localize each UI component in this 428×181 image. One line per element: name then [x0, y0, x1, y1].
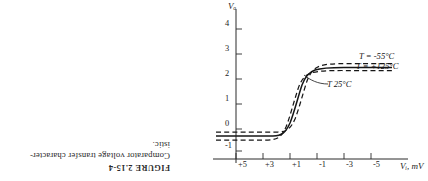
- y-axis-title: Vₒ: [228, 1, 236, 11]
- curve-label-t25c: T 25°C: [327, 79, 352, 89]
- x-axis-title: Vᵢ, mV: [400, 161, 425, 171]
- x-axis-ticks: [236, 153, 371, 159]
- comparator-transfer-characteristic-chart: -5 -3 -1 +1 +3 +5 -1 0 1 2 3 4 Vᵢ,: [178, 0, 428, 181]
- y-tick-label: -1: [225, 141, 232, 150]
- curve-label-t-minus-55c: T = -55°C: [359, 51, 395, 61]
- y-tick-label: 2: [225, 69, 229, 78]
- y-tick-label: 1: [225, 94, 229, 103]
- figure-number: FIGURE 2.15-4: [10, 162, 170, 174]
- curve-label-t-plus-125c: T = +125°C: [356, 61, 399, 71]
- figure-caption-line-1: Comparator voltage transfer character-: [10, 150, 170, 162]
- y-axis-ticks: [236, 29, 242, 151]
- figure-caption-line-2: istic.: [10, 139, 170, 151]
- y-tick-label: 4: [225, 19, 230, 28]
- curve-t-25c: [216, 68, 392, 137]
- scanned-page-rotated-180: -5 -3 -1 +1 +3 +5 -1 0 1 2 3 4 Vᵢ,: [0, 0, 428, 181]
- figure-caption: FIGURE 2.15-4 Comparator voltage transfe…: [10, 139, 170, 174]
- x-tick-label: -1: [319, 160, 326, 169]
- y-tick-label: 3: [225, 44, 229, 53]
- chart-svg: -5 -3 -1 +1 +3 +5 -1 0 1 2 3 4 Vᵢ,: [178, 0, 428, 181]
- figure-plot-area: -5 -3 -1 +1 +3 +5 -1 0 1 2 3 4 Vᵢ,: [178, 0, 428, 181]
- x-tick-label: +3: [265, 160, 274, 169]
- x-tick-label: +1: [292, 160, 301, 169]
- y-tick-label: 0: [225, 119, 229, 128]
- x-tick-label-group: -5 -3 -1 +1 +3 +5: [238, 160, 380, 169]
- y-tick-label-group: -1 0 1 2 3 4: [225, 19, 232, 150]
- curve-t-minus-55c: [216, 64, 392, 133]
- x-tick-label: -5: [373, 160, 380, 169]
- x-tick-label: -3: [346, 160, 353, 169]
- x-tick-label: +5: [238, 160, 247, 169]
